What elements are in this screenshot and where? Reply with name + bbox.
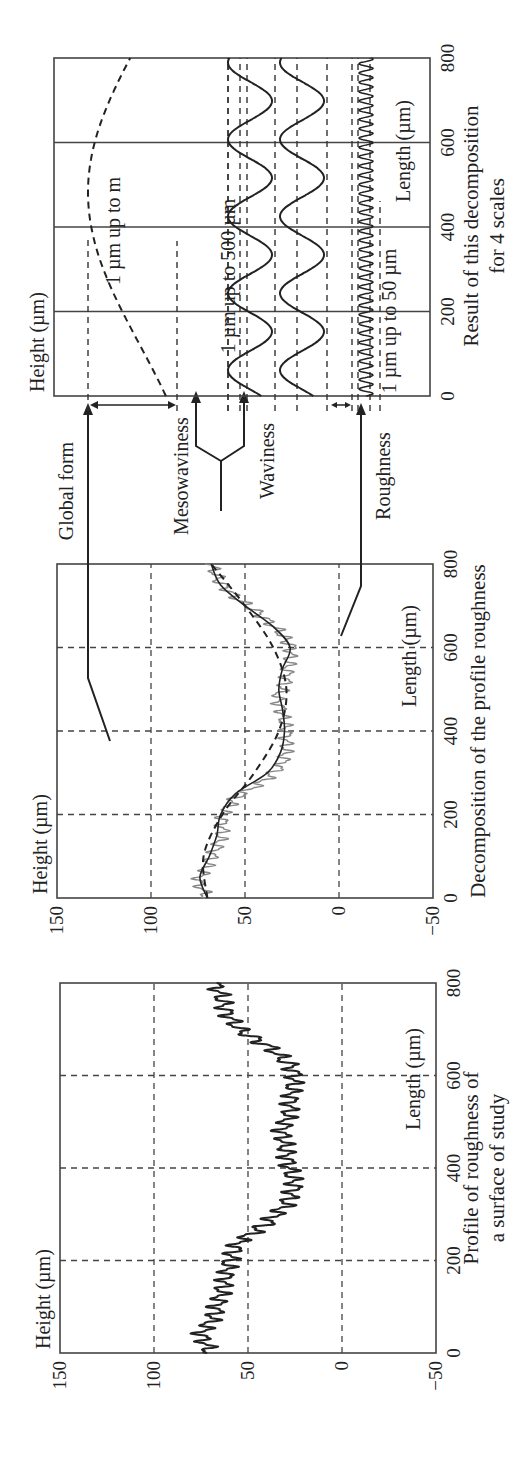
- roughness-label: Roughness: [372, 432, 395, 520]
- svg-text:50: 50: [237, 1361, 258, 1380]
- mesowaviness-arrowhead: [191, 391, 201, 403]
- decomposition-arrows: Global form Mesowaviness Waviness Roughn…: [55, 391, 395, 741]
- result-ylabel: Height (µm): [26, 292, 49, 392]
- roughness-arrow: [341, 413, 361, 636]
- svg-text:800: 800: [437, 44, 458, 73]
- svg-text:100: 100: [143, 1361, 164, 1390]
- profile-yticks: −50050100150: [49, 1361, 446, 1391]
- svg-text:600: 600: [440, 633, 461, 662]
- mesowaviness-arrow: [196, 401, 221, 461]
- profile-panel: Height (µm) Length (µm) −50050100150 020…: [32, 969, 509, 1391]
- global-form-arrow: [88, 413, 110, 741]
- result-xlabel: Length (µm): [392, 100, 415, 202]
- svg-text:200: 200: [440, 800, 461, 829]
- profile-grid: [60, 983, 436, 1353]
- result-xticks: 0200400600800: [437, 44, 458, 401]
- svg-text:0: 0: [331, 1361, 352, 1371]
- mesowaviness-label: Mesowaviness: [170, 417, 192, 535]
- svg-text:150: 150: [46, 906, 67, 935]
- result-caption-line1: Result of this decomposition: [459, 105, 483, 346]
- profile-caption-line2: a surface of study: [485, 1093, 509, 1242]
- result-panel: Height (µm) 1 µm up to m 1 µm up to 500 …: [26, 44, 509, 411]
- decomposition-panel: Height (µm) Length (µm) −50050100150 020…: [29, 550, 490, 936]
- decomposition-caption: Decomposition of the profile roughness: [466, 564, 490, 898]
- decomposition-grid: [57, 564, 433, 898]
- svg-text:600: 600: [437, 128, 458, 157]
- decomposition-yticks: −50050100150: [46, 906, 443, 936]
- profile-ylabel: Height (µm): [32, 1249, 55, 1349]
- svg-text:50: 50: [234, 906, 255, 925]
- figure: Height (µm) Length (µm) −50050100150 020…: [0, 0, 530, 1471]
- strip-label-meso: 1 µm up to 500 µm: [217, 198, 240, 353]
- result-caption-line2: for 4 scales: [485, 178, 509, 274]
- decomposition-ylabel: Height (µm): [29, 794, 52, 894]
- decomposition-xlabel: Length (µm): [398, 605, 421, 707]
- svg-text:400: 400: [437, 213, 458, 242]
- svg-text:100: 100: [140, 906, 161, 935]
- svg-text:0: 0: [328, 906, 349, 916]
- svg-text:0: 0: [437, 391, 458, 401]
- svg-text:−50: −50: [425, 1361, 446, 1391]
- svg-text:800: 800: [443, 969, 464, 998]
- profile-caption-line1: Profile of roughness of: [459, 1071, 483, 1264]
- strip-label-rough: 1 µm up to 50 µm: [378, 248, 401, 393]
- svg-text:200: 200: [437, 297, 458, 326]
- profile-xlabel: Length (µm): [402, 1028, 425, 1130]
- svg-text:400: 400: [440, 717, 461, 746]
- svg-text:0: 0: [440, 893, 461, 903]
- svg-text:−50: −50: [422, 906, 443, 936]
- svg-text:800: 800: [440, 550, 461, 579]
- strip-label-global: 1 µm up to m: [102, 176, 125, 285]
- decomposition-xticks: 0200400600800: [440, 550, 461, 903]
- svg-text:0: 0: [443, 1348, 464, 1358]
- svg-text:150: 150: [49, 1361, 70, 1390]
- waviness-label: Waviness: [256, 423, 278, 499]
- global-form-label: Global form: [55, 441, 77, 540]
